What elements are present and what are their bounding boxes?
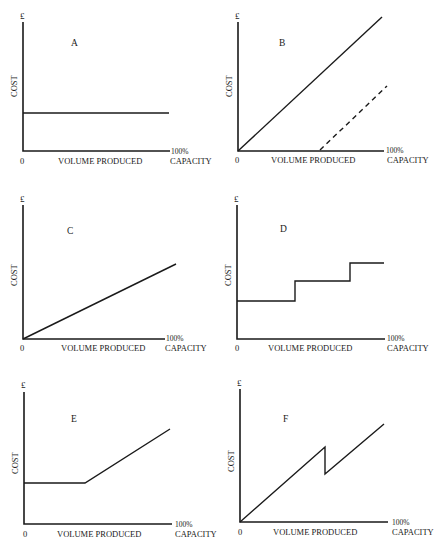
y-unit-label: £ (21, 380, 26, 390)
capacity-label: CAPACITY (392, 527, 434, 537)
capacity-percent-label: 100% (387, 334, 405, 343)
y-unit-label: £ (20, 194, 25, 204)
semi-variable-cost-line (24, 429, 170, 483)
capacity-percent-label: 100% (392, 518, 410, 527)
capacity-label: CAPACITY (175, 529, 217, 539)
x-axis-label: VOLUME PRODUCED (61, 343, 145, 353)
y-unit-label: £ (20, 11, 25, 21)
origin-label: 0 (20, 156, 24, 166)
panel-label: B (279, 38, 285, 48)
origin-label: 0 (238, 527, 242, 537)
capacity-percent-label: 100% (166, 334, 184, 343)
axis-lines (237, 205, 385, 339)
capacity-label: CAPACITY (165, 343, 207, 353)
cost-behaviour-diagrams: £ COST A 0 VOLUME PRODUCED 100% CAPACITY… (0, 0, 444, 544)
variable-cost-line (23, 264, 176, 339)
x-axis-label: VOLUME PRODUCED (57, 529, 141, 539)
capacity-percent-label: 100% (171, 147, 189, 156)
panel-label: C (67, 226, 73, 236)
panel-label: D (280, 224, 287, 234)
axis-lines (23, 205, 165, 339)
dashed-cost-line (320, 86, 387, 150)
capacity-label: CAPACITY (170, 156, 212, 166)
axis-lines (24, 392, 172, 524)
origin-label: 0 (20, 343, 24, 353)
panel-b: £ COST B 0 VOLUME PRODUCED 100% CAPACITY (224, 11, 429, 165)
panel-f: £ COST F 0 VOLUME PRODUCED 100% CAPACITY (226, 378, 434, 537)
capacity-label: CAPACITY (387, 155, 429, 165)
y-unit-label: £ (234, 194, 239, 204)
origin-label: 0 (235, 155, 239, 165)
panel-label: F (283, 414, 288, 424)
panel-a: £ COST A 0 VOLUME PRODUCED 100% CAPACITY (9, 11, 212, 166)
variable-cost-drop-line (240, 424, 384, 522)
y-unit-label: £ (237, 378, 242, 388)
capacity-percent-label: 100% (386, 146, 404, 155)
y-unit-label: £ (235, 11, 240, 21)
x-axis-label: VOLUME PRODUCED (268, 343, 352, 353)
panel-d: £ COST D 0 VOLUME PRODUCED 100% CAPACITY (223, 194, 429, 353)
y-axis-label: COST (9, 74, 19, 97)
panel-label: A (71, 38, 78, 48)
y-axis-label: COST (10, 451, 20, 474)
y-axis-label: COST (226, 449, 236, 472)
panel-c: £ COST C 0 VOLUME PRODUCED 100% CAPACITY (9, 194, 207, 353)
capacity-percent-label: 100% (175, 520, 193, 529)
y-axis-label: COST (224, 74, 234, 97)
y-axis-label: COST (223, 263, 233, 286)
variable-cost-line (238, 17, 382, 151)
axis-lines (238, 22, 384, 151)
stepped-cost-line (237, 263, 384, 301)
x-axis-label: VOLUME PRODUCED (58, 156, 142, 166)
origin-label: 0 (23, 529, 27, 539)
panel-e: £ COST E 0 VOLUME PRODUCED 100% CAPACITY (10, 380, 217, 539)
panel-label: E (71, 414, 77, 424)
x-axis-label: VOLUME PRODUCED (273, 527, 357, 537)
capacity-label: CAPACITY (387, 343, 429, 353)
x-axis-label: VOLUME PRODUCED (271, 155, 355, 165)
axis-lines (23, 22, 170, 151)
y-axis-label: COST (9, 263, 19, 286)
origin-label: 0 (235, 343, 239, 353)
